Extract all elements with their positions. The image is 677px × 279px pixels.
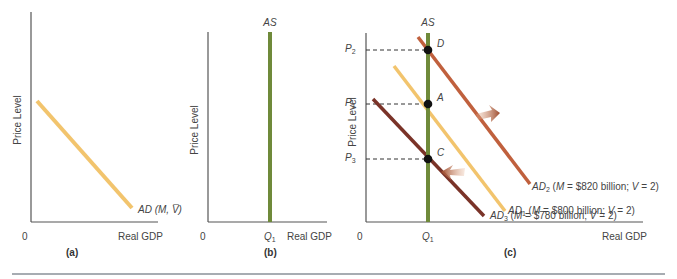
p3-tick-label: P3 [345,152,356,164]
x-axis-label: Real GDP [287,231,332,242]
panel-caption: (c) [504,247,516,258]
shift-right-arrow-icon [476,105,500,122]
point-c [424,155,433,164]
ad2-curve-label: AD2 (M = $820 billion; V = 2) [531,181,659,193]
x-axis-label: Real GDP [118,231,163,242]
origin-label: 0 [200,231,206,242]
panel-caption: (a) [66,247,78,258]
panel-caption: (b) [264,247,277,258]
ad-curve [37,101,132,208]
panel-c: Price Level AS D A C P2 P1 P3 [345,17,659,258]
money-supply-ad-as-figure: Price Level AD (M, V̅) 0 Real GDP (a) Pr… [0,0,677,279]
panel-a: Price Level AD (M, V̅) 0 Real GDP (a) [12,12,182,258]
point-c-label: C [437,147,445,158]
point-d-label: D [437,38,444,49]
shift-left-arrow-icon [441,165,465,180]
point-a [424,100,433,109]
point-d [424,46,433,55]
as-curve-label: AS [262,17,277,28]
y-axis-label: Price Level [12,95,23,144]
as-curve-label: AS [420,17,435,28]
q1-tick-label: Q1 [422,231,434,243]
x-axis-label: Real GDP [602,231,647,242]
p2-tick-label: P2 [345,43,356,55]
point-a-label: A [436,92,444,103]
y-axis-label: Price Level [189,105,200,154]
ad-curve-label: AD (M, V̅) [137,204,182,215]
panel-b: Price Level AS 0 Q1 Real GDP (b) [189,17,332,258]
origin-label: 0 [357,231,363,242]
q1-tick-label: Q1 [264,231,276,243]
origin-label: 0 [22,231,28,242]
ad3-curve-label: AD3 (M = $780 billion; V = 2) [489,210,617,222]
